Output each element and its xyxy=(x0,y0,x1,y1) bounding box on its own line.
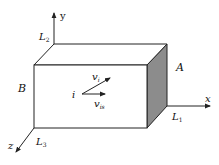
particle-label: i xyxy=(72,89,75,100)
z-axis xyxy=(16,128,34,152)
y-axis-label: y xyxy=(59,10,66,21)
z-axis-label: z xyxy=(7,140,14,151)
x-axis-label: x xyxy=(205,93,211,104)
label-b: B xyxy=(17,82,26,95)
label-a: A xyxy=(175,61,184,74)
box-diagram: y x z L2 L1 L3 A B i vi vis xyxy=(0,0,219,165)
top-face xyxy=(34,44,167,65)
front-face xyxy=(34,65,147,128)
label-l1: L1 xyxy=(171,111,182,123)
label-l3: L3 xyxy=(35,136,47,148)
label-l2: L2 xyxy=(38,31,50,43)
